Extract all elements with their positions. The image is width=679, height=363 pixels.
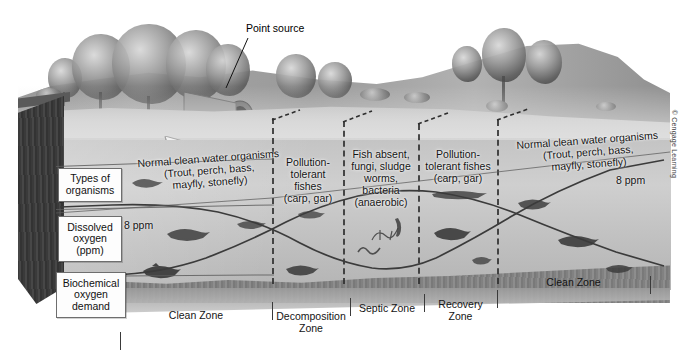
tree-icon [318,62,352,98]
gar-fish-icon [430,188,488,200]
copyright-credit: © Cengage Learning [671,110,678,178]
organism-label-line: tolerant fishes [276,168,340,192]
fish-icon [604,262,634,274]
organism-label-line: (carp, gar) [276,192,340,204]
fish-icon [556,232,600,248]
zone-name-line: Zone [424,311,497,323]
zone-name-recovery-zone: Recovery Zone [424,299,497,322]
zone-name-clean-zone-right: Clean Zone [497,277,650,289]
tree-icon [482,28,526,82]
tree-trunk-icon [502,76,505,102]
organism-label-line: worms, [347,172,415,184]
sludge-worm-icon [356,240,382,256]
organism-label-line: bacteria [347,184,415,196]
fish-icon [388,216,412,238]
fish-icon [235,218,267,230]
fish-icon [140,262,182,280]
row-label-dissolved-oxygen: Dissolved oxygen (ppm) [58,216,122,262]
zone-tick [497,290,498,308]
tree-icon [526,40,562,84]
row-label-biochemical-oxygen-demand: Biochemical oxygen demand [56,272,126,318]
organism-label-recovery-zone: Pollution- tolerant fishes (carp, gar) [421,148,495,184]
tree-icon [452,46,482,82]
fish-icon [296,208,326,219]
zone-name-line: Zone [272,323,350,335]
zone-tick [650,276,651,294]
shrub-icon [404,92,430,103]
fish-icon [284,262,320,276]
point-source-label: Point source [246,22,304,34]
zone-name-line: Decomposition [272,311,350,323]
organism-label-line: fungi, sludge [347,160,415,172]
oxygen-reading-left: 8 ppm [124,219,153,231]
zone-name-decomposition-zone: Decomposition Zone [272,311,350,334]
fish-icon [165,225,211,242]
fish-icon [516,196,552,210]
oxygen-reading-right: 8 ppm [616,174,645,186]
organism-label-line: (carp, gar) [421,172,495,184]
zone-name-line: Septic Zone [350,303,424,315]
row-label-line: organisms [66,185,114,197]
point-source-leader-line [218,30,298,90]
zone-name-septic-zone: Septic Zone [350,303,424,315]
shrub-icon [360,88,390,101]
organism-label-line: Fish absent, [347,148,415,160]
organism-label-line: Pollution- [276,156,340,168]
organism-label-line: tolerant fishes [421,160,495,172]
row-label-line: (ppm) [67,245,113,257]
organism-label-decomposition-zone: Pollution- tolerant fishes (carp, gar) [276,156,340,204]
figure-canvas: Point source [0,0,679,363]
organism-label-septic-zone: Fish absent, fungi, sludge worms, bacter… [347,148,415,208]
zone-name-line: Clean Zone [497,277,650,289]
row-label-line: demand [63,301,120,313]
row-label-types-of-organisms: Types of organisms [58,168,122,202]
zone-name-line: Clean Zone [120,310,272,322]
fish-icon [470,254,492,266]
zone-tick [120,332,121,350]
carp-fish-icon [432,224,472,241]
organism-label-line: (anaerobic) [347,196,415,208]
organism-label-line: Pollution- [421,148,495,160]
zone-name-line: Recovery [424,299,497,311]
zone-name-clean-zone-left: Clean Zone [120,310,272,322]
